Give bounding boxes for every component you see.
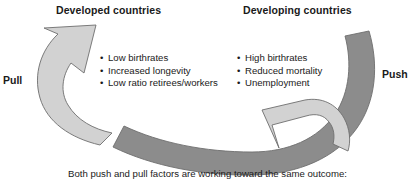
list-item-label: Increased longevity: [108, 65, 191, 76]
push-label: Push: [382, 68, 408, 80]
list-item: • Increased longevity: [100, 65, 218, 78]
bullet-icon: •: [237, 77, 240, 90]
list-item-label: Unemployment: [245, 77, 310, 88]
bullet-icon: •: [100, 65, 103, 78]
push-pull-figure: Developed countries Developing countries…: [0, 0, 415, 185]
bullet-icon: •: [237, 65, 240, 78]
bullet-icon: •: [100, 52, 103, 65]
list-item-label: High birthrates: [245, 52, 307, 63]
arrow-diagram-graphics: [0, 0, 415, 185]
list-item-label: Reduced mortality: [245, 65, 322, 76]
list-item: • Reduced mortality: [237, 65, 322, 78]
developed-countries-factor-list: • Low birthrates • Increased longevity •…: [100, 52, 218, 90]
developing-countries-factor-list: • High birthrates • Reduced mortality • …: [237, 52, 322, 90]
pull-label: Pull: [3, 74, 22, 86]
list-item: • Unemployment: [237, 77, 322, 90]
list-item: • High birthrates: [237, 52, 322, 65]
figure-caption: Both push and pull factors are working t…: [0, 168, 415, 180]
heading-developed-countries: Developed countries: [56, 4, 161, 16]
list-item: • Low birthrates: [100, 52, 218, 65]
list-item-label: Low birthrates: [108, 52, 168, 63]
heading-developing-countries: Developing countries: [243, 4, 352, 16]
list-item-label: Low ratio retirees/workers: [108, 77, 218, 88]
bullet-icon: •: [237, 52, 240, 65]
list-item: • Low ratio retirees/workers: [100, 77, 218, 90]
bullet-icon: •: [100, 77, 103, 90]
